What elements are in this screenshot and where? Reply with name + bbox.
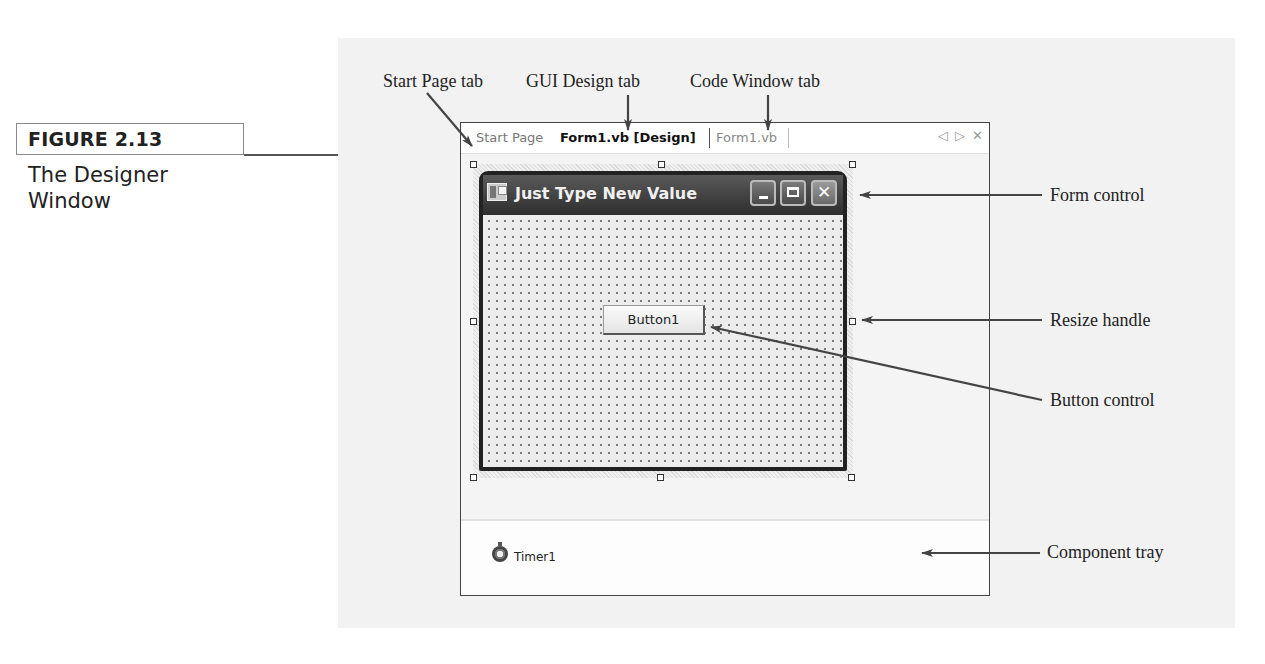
callout-arrows	[0, 0, 1265, 664]
arrow-button-control	[711, 327, 1042, 400]
arrow-start-page-tab	[427, 93, 472, 146]
